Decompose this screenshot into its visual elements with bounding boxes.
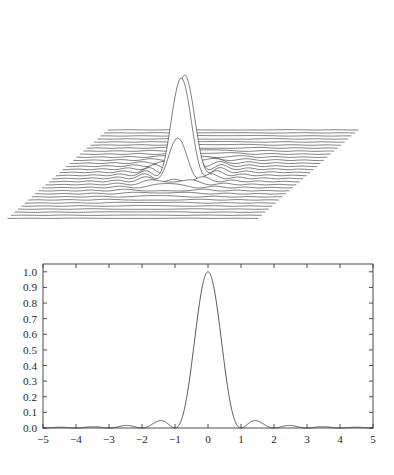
figure-container: −5−4−3−2−10123450.00.10.20.30.40.50.60.7… <box>0 0 394 475</box>
x-tick-label: 0 <box>205 433 211 445</box>
x-tick-label: −2 <box>136 433 148 445</box>
waterfall-line-group <box>8 75 358 248</box>
y-tick-label: 0.5 <box>23 344 37 356</box>
x-tick-label: 3 <box>304 433 310 445</box>
waterfall-row-mask <box>8 218 258 248</box>
y-tick-label: 0.2 <box>23 391 37 403</box>
surface-plot-svg <box>0 0 394 248</box>
x-tick-label: 2 <box>271 433 277 445</box>
profile-curve <box>43 272 373 428</box>
y-tick-label: 0.1 <box>23 406 37 418</box>
y-tick-label: 0.4 <box>23 360 37 372</box>
y-tick-label: 0.6 <box>23 328 37 340</box>
x-tick-label: 5 <box>370 433 376 445</box>
x-tick-label: −4 <box>70 433 82 445</box>
profile-plot-panel: −5−4−3−2−10123450.00.10.20.30.40.50.60.7… <box>0 248 394 475</box>
profile-plot-svg: −5−4−3−2−10123450.00.10.20.30.40.50.60.7… <box>0 248 394 475</box>
x-tick-label: 4 <box>337 433 343 445</box>
tick-label-group: −5−4−3−2−10123450.00.10.20.30.40.50.60.7… <box>23 266 376 445</box>
y-tick-label: 0.3 <box>23 375 37 387</box>
x-tick-label: −1 <box>169 433 181 445</box>
y-tick-label: 0.9 <box>23 281 37 293</box>
y-tick-label: 0.8 <box>23 297 37 309</box>
y-tick-label: 1.0 <box>23 266 37 278</box>
y-tick-label: 0.0 <box>23 422 37 434</box>
x-tick-label: 1 <box>238 433 244 445</box>
y-tick-label: 0.7 <box>23 313 37 325</box>
surface-plot-panel <box>0 0 394 248</box>
tick-group <box>43 264 373 428</box>
x-tick-label: −3 <box>103 433 115 445</box>
plot-frame <box>43 264 373 428</box>
x-tick-label: −5 <box>37 433 49 445</box>
